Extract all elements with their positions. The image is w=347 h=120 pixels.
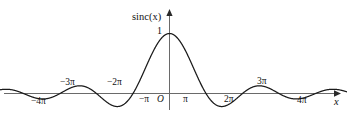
y-axis-arrowhead	[166, 9, 172, 16]
x-tick-label-pi: π	[183, 95, 188, 105]
x-tick-label-4pi: 4π	[297, 96, 307, 106]
x-tick-label-negpi: −π	[139, 95, 149, 105]
x-tick-label-neg2pi: −2π	[107, 78, 122, 88]
x-tick-label-neg3pi: −3π	[60, 78, 75, 88]
x-tick-label-3pi: 3π	[257, 77, 267, 87]
sinc-function-plot: sinc(x) 1 O −4π −3π −2π −π π 2π 3π 4π x	[0, 0, 347, 120]
y-tick-label-1: 1	[157, 26, 162, 36]
y-axis-label: sinc(x)	[132, 12, 161, 23]
x-axis-label: x	[334, 97, 339, 108]
sinc-main-lobe	[0, 34, 347, 107]
origin-label: O	[157, 95, 164, 105]
x-tick-label-2pi: 2π	[224, 95, 234, 105]
plot-canvas	[0, 0, 347, 120]
x-tick-label-neg4pi: −4π	[31, 97, 46, 107]
